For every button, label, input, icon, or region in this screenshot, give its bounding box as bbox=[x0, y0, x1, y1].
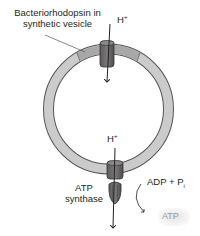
bacteriorhodopsin-label-line2: synthetic vesicle bbox=[10, 18, 105, 29]
atp-product-label: ATP bbox=[162, 211, 179, 222]
bacteriorhodopsin-leader-line bbox=[45, 35, 85, 52]
bacteriorhodopsin-protein bbox=[100, 41, 114, 68]
bacteriorhodopsin-label: Bacteriorhodopsin in synthetic vesicle bbox=[10, 7, 105, 29]
atp-synthase-label-line2: synthase bbox=[60, 193, 108, 204]
h-plus-bottom-label: H+ bbox=[107, 133, 117, 144]
adp-pi-label: ADP + Pi bbox=[147, 176, 185, 187]
h-plus-top-label: H+ bbox=[117, 14, 127, 25]
bacteriorhodopsin-label-line1: Bacteriorhodopsin in bbox=[10, 7, 105, 18]
reaction-arrow bbox=[136, 184, 144, 212]
atp-synthase-label-line1: ATP bbox=[60, 182, 108, 193]
atp-synthase-label: ATP synthase bbox=[60, 182, 108, 204]
